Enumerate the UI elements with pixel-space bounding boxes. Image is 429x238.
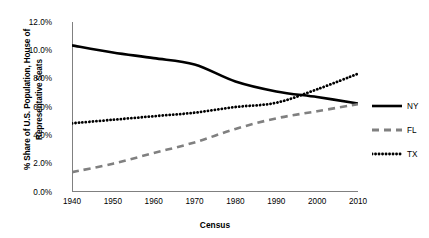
x-axis-tick-label: 1970 [175, 197, 215, 206]
x-axis-tick-label: 1990 [256, 197, 296, 206]
chart-legend: NYFLTX [372, 94, 429, 166]
x-axis-title: Census [72, 220, 358, 230]
y-axis-tick-label: 12.0% [12, 18, 52, 27]
y-axis-tick-label: 4.0% [12, 131, 52, 140]
legend-label: FL [407, 126, 417, 135]
x-axis-tick-label: 2010 [338, 197, 378, 206]
legend-swatch-dotted-icon [372, 149, 402, 159]
legend-item-fl[interactable]: FL [372, 118, 429, 142]
x-axis-tick-label: 1950 [93, 197, 133, 206]
legend-label: TX [407, 150, 417, 159]
plot-svg [72, 22, 358, 192]
y-axis-tick-label: 6.0% [12, 103, 52, 112]
chart-container: % Share of U.S. Population, House of Rep… [0, 0, 429, 238]
y-axis-tick-label: 0.0% [12, 188, 52, 197]
y-axis-tick-label: 10.0% [12, 46, 52, 55]
x-axis-tick-label: 1960 [134, 197, 174, 206]
y-axis-tick-label: 2.0% [12, 159, 52, 168]
y-axis-tick-label: 8.0% [12, 74, 52, 83]
legend-label: NY [407, 102, 418, 111]
legend-item-ny[interactable]: NY [372, 94, 429, 118]
legend-swatch-dashed-icon [372, 125, 402, 135]
legend-item-tx[interactable]: TX [372, 142, 429, 166]
x-axis-tick-label: 2000 [297, 197, 337, 206]
series-line-fl [72, 104, 358, 172]
x-axis-tick-label: 1940 [52, 197, 92, 206]
series-line-tx [72, 74, 358, 124]
legend-swatch-solid-icon [372, 101, 402, 111]
series-line-ny [72, 45, 358, 103]
plot-area [72, 22, 358, 192]
x-axis-tick-label: 1980 [215, 197, 255, 206]
